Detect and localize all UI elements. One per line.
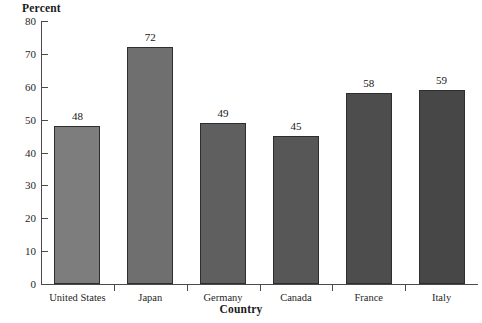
x-category-label: Canada	[280, 293, 312, 304]
y-tick-label: 80	[25, 16, 36, 27]
bar	[273, 136, 319, 284]
bar-chart: Percent 01020304050607080 487249455859 U…	[0, 0, 482, 323]
bar-value-label: 45	[290, 121, 301, 132]
y-tick	[42, 185, 48, 186]
x-tick	[332, 285, 333, 291]
y-tick-label: 40	[25, 147, 36, 158]
y-tick-label: 30	[25, 180, 36, 191]
x-axis-title: Country	[0, 303, 482, 315]
bar-value-label: 58	[363, 78, 374, 89]
y-axis-title: Percent	[22, 2, 61, 14]
y-tick	[42, 218, 48, 219]
bar-value-label: 49	[218, 108, 229, 119]
x-category-label: Japan	[138, 293, 162, 304]
y-tick-label: 70	[25, 48, 36, 59]
y-tick-label: 50	[25, 114, 36, 125]
plot-area: 01020304050607080 487249455859 United St…	[41, 21, 478, 284]
x-tick	[405, 285, 406, 291]
y-tick-label: 0	[31, 279, 37, 290]
x-tick	[260, 285, 261, 291]
bar-value-label: 48	[72, 111, 83, 122]
y-tick	[42, 120, 48, 121]
y-tick-label: 20	[25, 213, 36, 224]
bar-value-label: 59	[436, 75, 447, 86]
x-category-label: Italy	[432, 293, 451, 304]
bar	[127, 47, 173, 284]
y-tick	[42, 284, 48, 285]
bar	[54, 126, 100, 284]
x-tick	[187, 285, 188, 291]
y-tick	[42, 251, 48, 252]
y-tick-label: 60	[25, 81, 36, 92]
bar	[346, 93, 392, 284]
y-tick	[42, 21, 48, 22]
y-tick	[42, 153, 48, 154]
y-tick	[42, 87, 48, 88]
x-tick	[114, 285, 115, 291]
y-tick-label: 10	[25, 246, 36, 257]
bar-value-label: 72	[145, 32, 156, 43]
y-tick	[42, 54, 48, 55]
bar	[200, 123, 246, 284]
x-category-label: Germany	[204, 293, 243, 304]
bar	[419, 90, 465, 284]
x-category-label: United States	[49, 293, 105, 304]
x-category-label: France	[354, 293, 383, 304]
